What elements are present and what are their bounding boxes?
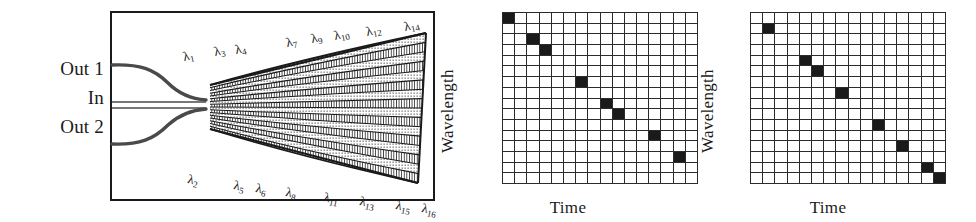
grid-cell <box>799 13 811 24</box>
grid-cell <box>787 77 799 88</box>
grid-cell <box>787 119 799 130</box>
grid-cell <box>799 162 811 173</box>
grid-row <box>503 98 698 109</box>
grid-cell <box>527 87 539 98</box>
grid-cell <box>624 34 636 45</box>
grid-cell <box>897 162 909 173</box>
grid-cell <box>885 55 897 66</box>
grid-cell <box>576 151 588 162</box>
grid-cell <box>933 162 945 173</box>
grid-cell <box>860 173 872 184</box>
grid-cell <box>787 98 799 109</box>
grid-cell <box>933 119 945 130</box>
grid-cell <box>848 98 860 109</box>
grid-cell <box>637 23 649 34</box>
grid-cell <box>824 162 836 173</box>
grid-cell <box>539 13 551 24</box>
grid-cell <box>612 87 624 98</box>
grid-cell <box>637 173 649 184</box>
grid-cell <box>612 77 624 88</box>
grid-cell <box>539 34 551 45</box>
grid-cell <box>503 77 515 88</box>
grid-cell <box>539 77 551 88</box>
grid-cell <box>600 109 612 120</box>
time-wavelength-grid-left-panel: Wavelength Time <box>440 0 696 222</box>
grid-cell <box>624 109 636 120</box>
grid-cell <box>612 98 624 109</box>
grid-cell <box>885 87 897 98</box>
grid-cell <box>872 77 884 88</box>
grid-cell <box>909 173 921 184</box>
grid-cell <box>503 151 515 162</box>
grid-cell <box>563 173 575 184</box>
grid-cell <box>836 151 848 162</box>
grid-cell <box>539 130 551 141</box>
grid-cell <box>649 87 661 98</box>
grid-cell <box>799 130 811 141</box>
grid-cell <box>685 66 697 77</box>
grid-cell <box>787 45 799 56</box>
grid-cell <box>848 87 860 98</box>
grid-cell <box>824 173 836 184</box>
grid-cell <box>897 23 909 34</box>
grid-cell <box>885 109 897 120</box>
y-axis-label-left: Wavelength <box>438 69 458 153</box>
grid-cell <box>885 119 897 130</box>
grid-cell <box>921 23 933 34</box>
grid-cell <box>811 151 823 162</box>
grid-cell <box>649 162 661 173</box>
lambda-subscript: 11 <box>328 197 338 209</box>
grid-cell <box>515 45 527 56</box>
grid-cell <box>921 77 933 88</box>
grid-cell <box>921 98 933 109</box>
grid-cell <box>673 55 685 66</box>
grid-cell <box>763 119 775 130</box>
grid-cell <box>787 162 799 173</box>
grid-row <box>751 55 946 66</box>
grid-cell <box>673 162 685 173</box>
grid-cell <box>527 162 539 173</box>
grid-cell <box>775 13 787 24</box>
grid-cell <box>836 173 848 184</box>
grid-cell <box>763 77 775 88</box>
grid-cell <box>539 162 551 173</box>
grid-cell <box>649 23 661 34</box>
grid-cell <box>897 173 909 184</box>
grid-cell <box>576 55 588 66</box>
grid-cell <box>551 119 563 130</box>
grid-cell <box>763 173 775 184</box>
grid-cell <box>588 87 600 98</box>
grid-cell <box>848 55 860 66</box>
grid-cell <box>787 130 799 141</box>
grid-cell <box>836 34 848 45</box>
grid-cell <box>673 130 685 141</box>
grid-cell <box>661 162 673 173</box>
grid-cell <box>503 109 515 120</box>
grid-cell <box>551 77 563 88</box>
grid-cell <box>811 23 823 34</box>
grid-cell <box>775 87 787 98</box>
grid-cell <box>897 109 909 120</box>
grid-cell <box>909 130 921 141</box>
grid-cell <box>576 98 588 109</box>
grid-cell <box>563 98 575 109</box>
grid-row <box>751 34 946 45</box>
grid-cell <box>751 45 763 56</box>
grid-cell <box>600 77 612 88</box>
grid-cell <box>637 130 649 141</box>
grid-cell <box>872 141 884 152</box>
grid-cell <box>661 55 673 66</box>
grid-cell <box>576 66 588 77</box>
grid-cell <box>787 13 799 24</box>
grid-cell <box>503 23 515 34</box>
grid-cell <box>824 130 836 141</box>
grid-cell <box>787 23 799 34</box>
grid-cell <box>685 55 697 66</box>
grid-cell <box>848 130 860 141</box>
grid-cell <box>763 13 775 24</box>
grid-cell <box>921 87 933 98</box>
grid-cell <box>685 173 697 184</box>
grid-cell <box>885 162 897 173</box>
grid-cell <box>539 173 551 184</box>
grid-cell <box>673 98 685 109</box>
